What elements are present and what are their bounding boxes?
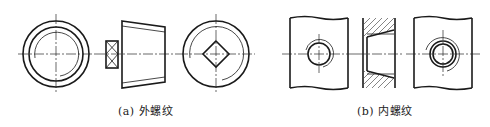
caption-internal-thread: (b) 内螺纹 xyxy=(357,102,413,118)
external-thread-end-view xyxy=(18,14,95,94)
external-thread-side-view xyxy=(95,21,178,88)
hatch-bottom xyxy=(344,64,408,92)
internal-thread-plate-view xyxy=(282,17,356,90)
external-thread-square-end-view xyxy=(178,14,255,94)
thread-drawing xyxy=(0,0,490,127)
caption-external-thread: (a) 外螺纹 xyxy=(118,102,173,118)
internal-thread-chamfer-plate-view xyxy=(406,17,480,90)
hatch-top xyxy=(344,16,408,44)
